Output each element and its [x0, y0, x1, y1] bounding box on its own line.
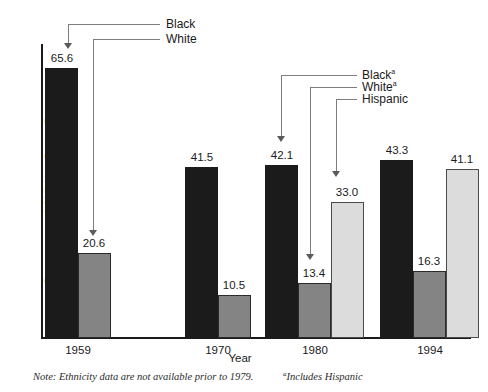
annotation-label-white-left: White: [166, 32, 197, 46]
footnote-hispanic-text: Includes Hispanic: [287, 371, 363, 382]
x-tick-1959: 1959: [56, 344, 100, 356]
bar-white-1994: [413, 271, 446, 338]
bar-value-hispanic-1980: 33.0: [325, 186, 369, 198]
bar-white-1980: [298, 283, 331, 338]
leader-line-black-1980-horizontal: [281, 75, 357, 76]
annotation-text-black-left: Black: [166, 17, 195, 31]
leader-line-white-1959-vertical: [93, 39, 94, 231]
poverty-bar-chart: Percentage of Children Below Poverty Yea…: [0, 0, 488, 392]
bar-white-1959: [78, 253, 111, 338]
bar-black-1980: [265, 165, 298, 338]
bar-value-hispanic-1994: 41.1: [440, 153, 484, 165]
bar-value-white-1970: 10.5: [212, 279, 256, 291]
bar-hispanic-1980: [331, 202, 364, 338]
bar-hispanic-1994: [446, 169, 479, 338]
x-tick-1980: 1980: [293, 344, 337, 356]
bar-value-black-1980: 42.1: [260, 149, 304, 161]
leader-line-white-1980-horizontal: [310, 87, 357, 88]
annotation-text-hispanic-right: Hispanic: [362, 92, 408, 106]
leader-line-black-1980-vertical: [281, 75, 282, 137]
bar-value-black-1970: 41.5: [180, 151, 224, 163]
annotation-superscript-white-right: a: [393, 80, 397, 87]
leader-line-black-1959-vertical: [68, 24, 69, 44]
x-tick-1994: 1994: [408, 344, 452, 356]
bar-black-1994: [380, 160, 413, 338]
footnote-hispanic: aIncludes Hispanic: [283, 371, 363, 382]
leader-line-white-1959-horizontal: [93, 39, 160, 40]
arrow-head-hispanic-1980: [332, 171, 340, 177]
arrow-head-white-1959: [89, 230, 97, 236]
annotation-superscript-black-right: a: [391, 68, 395, 75]
bar-white-1970: [218, 295, 251, 338]
bar-value-black-1994: 43.3: [375, 144, 419, 156]
annotation-text-white-left: White: [166, 32, 197, 46]
arrow-head-white-1980: [306, 254, 314, 260]
bar-black-1970: [185, 167, 218, 338]
leader-line-hispanic-1980-horizontal: [336, 99, 357, 100]
x-tick-1970: 1970: [196, 344, 240, 356]
leader-line-black-1959-horizontal: [68, 24, 160, 25]
bar-value-white-1959: 20.6: [72, 237, 116, 249]
arrow-head-black-1980: [277, 136, 285, 142]
annotation-label-black-left: Black: [166, 17, 195, 31]
bar-value-black-1959: 65.6: [40, 52, 84, 64]
bar-value-white-1980: 13.4: [292, 267, 336, 279]
bar-value-white-1994: 16.3: [407, 255, 451, 267]
annotation-label-hispanic-right: Hispanic: [362, 92, 408, 106]
leader-line-hispanic-1980-vertical: [336, 99, 337, 172]
leader-line-white-1980-vertical: [310, 87, 311, 255]
bar-black-1959: [45, 68, 78, 338]
arrow-head-black-1959: [64, 43, 72, 49]
footnote-note: Note: Ethnicity data are not available p…: [33, 371, 253, 382]
